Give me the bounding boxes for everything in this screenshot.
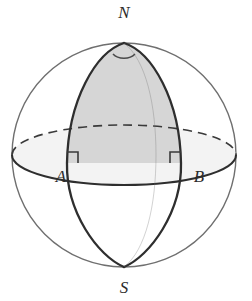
label-point-b: B: [194, 167, 205, 186]
label-north-pole: N: [117, 3, 131, 22]
label-point-a: A: [55, 167, 67, 186]
sphere-lune-diagram: N A B S: [0, 0, 252, 301]
label-south-pole: S: [120, 278, 129, 297]
figure-root: N A B S: [0, 0, 252, 301]
